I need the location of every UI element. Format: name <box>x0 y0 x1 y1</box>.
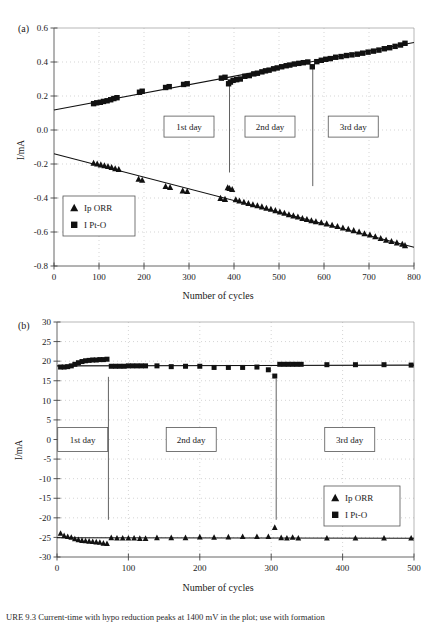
data-point-square <box>409 363 414 368</box>
y-tick-label: 5 <box>47 415 52 425</box>
series-ip-orr <box>58 524 414 546</box>
y-tick-label: -25 <box>39 533 51 543</box>
day-label-text: 3rd day <box>340 122 368 132</box>
data-point-square <box>154 363 159 368</box>
day-label-box: 3rd day <box>328 116 378 137</box>
y-tick-label: -20 <box>39 513 51 523</box>
data-point-square <box>222 75 227 80</box>
data-point-square <box>212 365 217 370</box>
data-point-square <box>355 51 360 56</box>
data-point-square <box>266 367 271 372</box>
legend-marker-square <box>332 512 338 518</box>
data-point-triangle <box>245 200 251 206</box>
x-tick-label: 100 <box>92 272 106 282</box>
data-point-square <box>387 45 392 50</box>
data-point-square <box>130 363 135 368</box>
data-point-triangle <box>250 201 256 207</box>
data-point-triangle <box>197 534 203 540</box>
data-point-square <box>254 365 259 370</box>
chart-legend: Ip ORRI Pt-O <box>63 196 135 236</box>
legend-marker-square <box>71 222 77 228</box>
x-tick-label: 800 <box>407 272 421 282</box>
day-label-box: 1st day <box>164 116 214 137</box>
data-point-square <box>169 364 174 369</box>
data-point-square <box>113 364 118 369</box>
y-tick-label: 0 <box>47 435 52 445</box>
y-tick-label: 0.2 <box>37 91 48 101</box>
data-point-triangle <box>356 228 362 234</box>
data-point-triangle <box>334 223 340 229</box>
panel-b-xlabel: Number of cycles <box>118 582 318 593</box>
data-point-triangle <box>240 533 246 539</box>
data-point-square <box>402 41 407 46</box>
data-point-square <box>324 362 329 367</box>
data-point-square <box>305 59 310 64</box>
day-label-text: 2nd day <box>256 122 285 132</box>
data-point-square <box>365 49 370 54</box>
x-tick-label: 200 <box>193 563 207 573</box>
y-tick-label: -0.6 <box>34 227 49 237</box>
series-pt-o <box>91 41 408 107</box>
data-point-triangle <box>367 232 373 238</box>
data-point-triangle <box>324 220 330 226</box>
data-point-triangle <box>211 534 217 540</box>
data-point-square <box>382 362 387 367</box>
y-tick-label: -15 <box>39 493 51 503</box>
day-label-text: 2nd day <box>177 435 206 445</box>
data-point-square <box>277 362 282 367</box>
chart-legend: Ip ORRI Pt-O <box>324 486 400 526</box>
data-point-triangle <box>361 230 367 236</box>
data-point-square <box>183 364 188 369</box>
panel-a-ylabel: I/mA <box>16 140 26 160</box>
data-point-square <box>382 46 387 51</box>
data-point-triangle <box>254 202 260 208</box>
y-tick-label: -5 <box>44 454 52 464</box>
panel-a-plot: 0.60.40.20.0-0.2-0.4-0.6-0.8010020030040… <box>0 0 426 311</box>
data-point-square <box>272 374 277 379</box>
legend-item-label: I Pt-O <box>84 220 107 230</box>
legend-item-label: I Pt-O <box>345 510 368 520</box>
panel-a-tag: (a) <box>18 23 29 34</box>
data-point-square <box>143 363 148 368</box>
data-point-square <box>392 44 397 49</box>
data-point-square <box>104 357 109 362</box>
data-point-triangle <box>351 227 357 233</box>
data-point-square <box>134 363 139 368</box>
chart-panel-b: (b) I/mA Number of cycles 302520151050-5… <box>0 300 426 600</box>
data-point-triangle <box>272 524 278 530</box>
x-tick-label: 0 <box>55 563 60 573</box>
day-label-box: 3rd day <box>325 428 375 452</box>
data-point-triangle <box>290 534 296 540</box>
data-point-square <box>185 81 190 86</box>
day-label-text: 1st day <box>70 435 96 445</box>
panel-b-ylabel: I/mA <box>14 440 24 460</box>
data-point-square <box>338 54 343 59</box>
day-label-box: 2nd day <box>166 428 216 452</box>
data-point-triangle <box>329 222 335 228</box>
x-tick-label: 500 <box>272 272 286 282</box>
data-point-square <box>344 53 349 58</box>
data-point-square <box>117 364 122 369</box>
y-tick-label: 0.0 <box>37 125 49 135</box>
y-tick-label: 20 <box>42 356 52 366</box>
y-tick-label: 10 <box>42 396 52 406</box>
data-point-triangle <box>263 205 269 211</box>
day-label-text: 3rd day <box>336 435 364 445</box>
panel-b-plot: 302520151050-5-10-15-20-25-3001002003004… <box>0 300 426 600</box>
data-point-square <box>294 362 299 367</box>
data-point-triangle <box>340 224 346 230</box>
data-point-square <box>353 362 358 367</box>
y-tick-label: -10 <box>39 474 51 484</box>
y-tick-label: 0.6 <box>37 23 49 33</box>
legend-item-label: Ip ORR <box>84 203 112 213</box>
y-tick-label: -30 <box>39 552 51 562</box>
data-point-square <box>371 48 376 53</box>
data-point-square <box>114 95 119 100</box>
figure-container: (a) I/mA Number of cycles 0.60.40.20.0-0… <box>0 0 426 622</box>
data-point-square <box>290 362 295 367</box>
chart-panel-a: (a) I/mA Number of cycles 0.60.40.20.0-0… <box>0 0 426 311</box>
data-point-square <box>122 364 127 369</box>
x-tick-label: 600 <box>317 272 331 282</box>
day-label-box: 1st day <box>58 428 108 452</box>
panel-b-tag: (b) <box>18 320 30 331</box>
